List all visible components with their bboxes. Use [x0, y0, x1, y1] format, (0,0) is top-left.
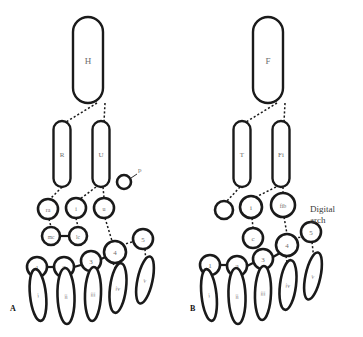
bone-humerus[interactable]: H: [73, 17, 103, 103]
bone-medial-centrale[interactable]: mc: [42, 227, 60, 245]
connector-B-5: [252, 218, 253, 228]
bone-label-femur: F: [265, 56, 270, 66]
bone-metatarsal-ii[interactable]: ii: [228, 268, 247, 325]
connector-B-2: [227, 187, 240, 201]
bone-metatarsal-iii[interactable]: iii: [254, 266, 272, 321]
panel-label-A: A: [10, 304, 16, 313]
figure-canvas: HRUraiumclc45123iiiiiiivvpAFTFiifibc4512…: [0, 0, 363, 337]
bone-radiale[interactable]: ra: [38, 199, 58, 219]
connector-A-3: [80, 187, 96, 199]
bone-metatarsal-iv[interactable]: iv: [277, 259, 299, 311]
bone-tibia[interactable]: T: [234, 121, 251, 187]
leader-line-pisiform-label: [131, 174, 137, 178]
bone-label-metacarpal-iii: iii: [90, 291, 96, 297]
bone-fibulare[interactable]: fib: [271, 193, 295, 217]
bone-ulna[interactable]: U: [93, 121, 110, 187]
connector-A-8: [105, 218, 112, 241]
panel-B: FTFiifibc45123iiiiiiivvDigitalarchB: [190, 17, 335, 324]
digital-arch-label-line-1: Digital: [310, 204, 335, 214]
connector-B-3: [256, 187, 276, 197]
connector-A-6: [76, 218, 78, 227]
bone-centrale[interactable]: c: [243, 228, 263, 248]
bone-metacarpal-iii[interactable]: iii: [84, 267, 102, 322]
bone-label-radiale: ra: [46, 207, 51, 213]
bone-label-metatarsal-iv: iv: [285, 282, 290, 289]
limb-skeleton-diagram: HRUraiumclc45123iiiiiiivvpAFTFiifibc4512…: [0, 0, 363, 337]
bone-lateral-centrale[interactable]: lc: [69, 227, 87, 245]
bone-metatarsal-i[interactable]: i: [199, 268, 219, 321]
bone-label-distal-carpal-3: 3: [89, 258, 93, 266]
bone-distal-tarsal-5[interactable]: 5: [301, 222, 321, 242]
bone-metacarpal-iv[interactable]: iv: [107, 262, 129, 314]
bone-label-intermedium: i: [250, 204, 252, 212]
bone-label-distal-carpal-4: 4: [113, 249, 117, 257]
bone-metatarsal-v[interactable]: v: [301, 251, 326, 301]
connector-B-0: [246, 103, 277, 122]
panel-label-B: B: [190, 304, 196, 313]
figure-caption-partial: [0, 327, 363, 337]
panel-A: HRUraiumclc45123iiiiiiivvpA: [10, 17, 157, 324]
bone-shape-pisiform: [117, 175, 131, 189]
bone-distal-tarsal-4[interactable]: 4: [276, 234, 298, 256]
bone-label-centrale: c: [251, 235, 254, 243]
bone-intermedium[interactable]: i: [66, 198, 86, 218]
bone-label-radius: R: [60, 151, 65, 159]
bone-label-distal-carpal-5: 5: [141, 236, 145, 244]
bone-label-humerus: H: [85, 56, 92, 66]
bone-metacarpal-v[interactable]: v: [133, 255, 158, 305]
bone-label-metatarsal-ii: ii: [235, 293, 239, 299]
bone-label-distal-tarsal-1: 1: [208, 262, 212, 270]
connector-A-2: [50, 187, 62, 199]
bone-intermedium[interactable]: i: [240, 196, 262, 218]
bone-shape-tibiale: [215, 201, 233, 219]
bone-radius[interactable]: R: [54, 121, 71, 187]
bone-label-ulna: U: [98, 151, 103, 159]
bone-label-ulnare: u: [103, 206, 106, 212]
connector-A-1: [104, 103, 105, 122]
pisiform-label: p: [138, 166, 142, 174]
bone-tibiale[interactable]: [215, 201, 233, 219]
bone-femur[interactable]: F: [253, 17, 283, 103]
bone-distal-carpal-5[interactable]: 5: [133, 229, 153, 249]
bone-distal-carpal-4[interactable]: 4: [104, 241, 126, 263]
bone-label-medial-centrale: mc: [48, 234, 55, 240]
bone-label-tibia: T: [240, 151, 245, 159]
bone-label-metatarsal-iii: iii: [260, 290, 266, 296]
bone-label-metacarpal-iv: iv: [115, 285, 120, 292]
bone-metacarpal-i[interactable]: i: [27, 268, 48, 321]
bone-ulnare[interactable]: u: [94, 198, 114, 218]
bone-pisiform[interactable]: [117, 175, 131, 189]
bone-label-distal-tarsal-4: 4: [285, 242, 289, 250]
bone-label-fibula: Fi: [278, 151, 284, 159]
connector-B-1: [284, 103, 285, 122]
connector-B-6: [284, 217, 287, 234]
bone-label-distal-tarsal-3: 3: [261, 256, 265, 264]
bone-label-metacarpal-ii: ii: [64, 293, 68, 299]
connector-A-4: [103, 187, 104, 198]
bone-fibula[interactable]: Fi: [273, 121, 290, 187]
digital-arch-label-line-2: arch: [310, 215, 326, 225]
bone-label-lateral-centrale: lc: [76, 234, 81, 240]
connector-A-0: [66, 103, 97, 122]
bone-label-distal-tarsal-5: 5: [309, 229, 313, 237]
bone-metacarpal-ii[interactable]: ii: [57, 268, 76, 325]
bone-label-fibulare: fib: [280, 203, 287, 209]
